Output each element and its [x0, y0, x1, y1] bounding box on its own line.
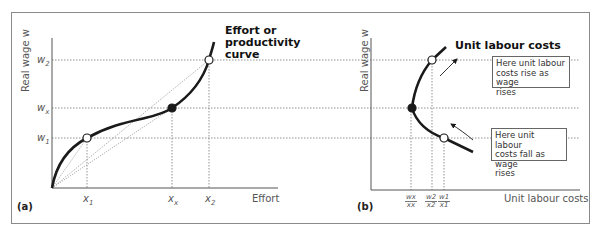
point-w2-x2 [205, 56, 213, 64]
x-axis-label-b: Unit labour costs [504, 194, 589, 204]
effort-curve [52, 42, 214, 188]
effort-curve-label: Effort or productivity curve [225, 25, 300, 61]
panel-tag-a: (a) [17, 201, 33, 212]
tick-x1: x1 [83, 194, 93, 207]
arrow-up-icon [440, 59, 457, 76]
point-w1-x1 [83, 134, 91, 142]
note-costs-rise: Here unit labour costs rise as wage rise… [492, 56, 570, 88]
point-min [408, 104, 416, 112]
tick-wx: wx [37, 103, 49, 116]
y-axis-label-a: Real wage w [20, 29, 31, 92]
tick-w2: w2 [37, 55, 50, 68]
ray-x [52, 108, 172, 188]
tick-xx: xx [168, 194, 178, 207]
ray-1 [52, 138, 87, 188]
y-axis-label-b: Real wage w [359, 29, 370, 92]
tick-w2-over-x2: w2x2 [425, 194, 437, 209]
ulc-curve-label: Unit labour costs [455, 40, 561, 52]
panel-tag-b: (b) [357, 201, 373, 212]
tick-w1-over-x1: w1x1 [438, 194, 450, 209]
note-costs-fall: Here unit labour costs fall as wage rise… [491, 128, 567, 161]
point-bottom [440, 134, 448, 142]
tick-w1: w1 [37, 133, 50, 146]
tick-wx-over-xx: wxxx [405, 194, 417, 209]
point-wx-xx [168, 104, 176, 112]
tick-x2: x2 [205, 194, 215, 207]
ray-2 [52, 60, 209, 188]
point-top [428, 56, 436, 64]
x-axis-label-a: Effort [252, 194, 279, 204]
